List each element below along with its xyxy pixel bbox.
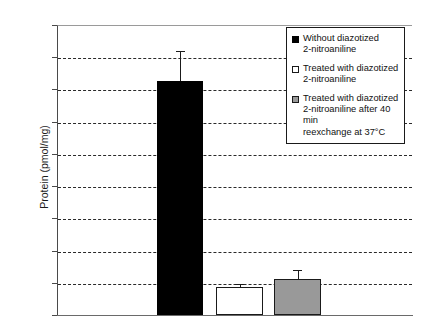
chart-legend: Without diazotized 2-nitroaniline Treate… [286,27,405,144]
gridline [58,252,412,253]
error-bar-cap-without-diazotized [176,51,185,52]
y-axis-title: Protein (pmol/mg) [38,125,50,208]
gridline [58,219,412,220]
bar-treated-after-reexchange [274,279,321,315]
error-bar-treated-after-reexchange [298,271,299,279]
black-square-swatch [292,36,299,43]
x-axis-line [57,315,413,316]
error-bar-without-diazotized [180,52,181,81]
legend-item-label: Without diazotized 2-nitroaniline [303,33,379,56]
legend-item-label: Treated with diazotized 2-nitroaniline a… [303,93,399,139]
gray-square-swatch [292,96,299,103]
white-square-swatch [292,66,299,73]
chart-figure: Protein (pmol/mg) 0500100015002000250030… [0,0,431,334]
bar-without-diazotized [157,81,203,315]
legend-item: Without diazotized 2-nitroaniline [292,33,399,56]
error-bar-cap-treated-after-reexchange [293,270,302,271]
bar-treated-with-diazotized [216,287,263,315]
legend-item-label: Treated with diazotized 2-nitroaniline [303,63,398,86]
gridline [58,187,412,188]
gridline [58,155,412,156]
legend-item: Treated with diazotized 2-nitroaniline a… [292,93,399,139]
error-bar-treated-with-diazotized [240,285,241,288]
error-bar-cap-treated-with-diazotized [235,284,244,285]
legend-item: Treated with diazotized 2-nitroaniline [292,63,399,86]
